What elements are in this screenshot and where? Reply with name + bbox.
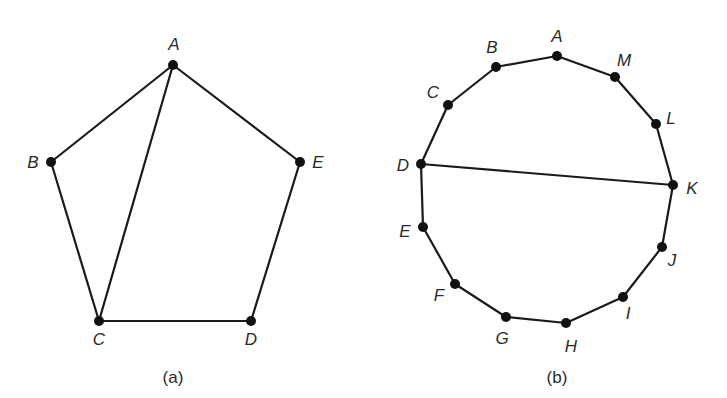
vertex-label-l: L xyxy=(666,109,675,128)
vertex-b xyxy=(46,157,56,167)
vertex-a xyxy=(552,51,562,61)
edge-k-l xyxy=(656,124,673,185)
edge-e-f xyxy=(423,227,455,284)
vertex-label-j: J xyxy=(667,251,677,270)
edge-d-k xyxy=(421,164,673,185)
vertex-label-a: A xyxy=(550,27,562,46)
vertex-label-e: E xyxy=(312,153,324,172)
vertex-label-b: B xyxy=(27,153,38,172)
edge-c-d xyxy=(421,105,448,164)
figure-caption: (a) xyxy=(163,368,184,387)
diagram-canvas: ABCDE(a) ABCDEFGHIJKLM(b) xyxy=(0,0,727,398)
edge-f-g xyxy=(455,284,506,317)
vertex-label-c: C xyxy=(93,330,106,349)
vertex-label-e: E xyxy=(399,222,411,241)
edge-b-c xyxy=(448,67,496,105)
vertex-label-d: D xyxy=(245,330,257,349)
edge-m-a xyxy=(557,56,615,77)
edge-i-j xyxy=(623,247,662,297)
vertex-f xyxy=(450,279,460,289)
vertex-g xyxy=(501,312,511,322)
vertex-e xyxy=(418,222,428,232)
vertex-label-b: B xyxy=(486,38,497,57)
vertex-label-c: C xyxy=(427,83,440,102)
vertex-label-i: I xyxy=(626,304,631,323)
edge-a-c xyxy=(99,65,173,321)
vertex-c xyxy=(443,100,453,110)
figure-b-13-cycle-graph: ABCDEFGHIJKLM(b) xyxy=(397,27,698,387)
vertex-label-k: K xyxy=(686,179,698,198)
vertex-label-d: D xyxy=(397,156,409,175)
edge-a-b xyxy=(496,56,557,67)
vertex-c xyxy=(94,316,104,326)
edge-a-b xyxy=(51,65,173,162)
vertex-label-g: G xyxy=(495,329,508,348)
vertex-label-f: F xyxy=(434,286,446,305)
vertex-k xyxy=(668,180,678,190)
edge-d-e xyxy=(251,162,300,321)
figure-caption: (b) xyxy=(547,368,568,387)
vertex-label-h: H xyxy=(565,337,578,356)
edge-b-c xyxy=(51,162,99,321)
edge-g-h xyxy=(506,317,566,323)
vertex-e xyxy=(295,157,305,167)
edge-h-i xyxy=(566,297,623,323)
vertex-l xyxy=(651,119,661,129)
edge-d-e xyxy=(421,164,423,227)
edge-j-k xyxy=(662,185,673,247)
vertex-d xyxy=(246,316,256,326)
vertex-i xyxy=(618,292,628,302)
vertex-j xyxy=(657,242,667,252)
vertex-a xyxy=(168,60,178,70)
vertex-h xyxy=(561,318,571,328)
vertex-label-a: A xyxy=(167,35,179,54)
figure-a-pentagon-graph: ABCDE(a) xyxy=(27,35,324,387)
vertex-m xyxy=(610,72,620,82)
vertex-d xyxy=(416,159,426,169)
edge-e-a xyxy=(173,65,300,162)
vertex-label-m: M xyxy=(617,51,632,70)
edge-l-m xyxy=(615,77,656,124)
vertex-b xyxy=(491,62,501,72)
